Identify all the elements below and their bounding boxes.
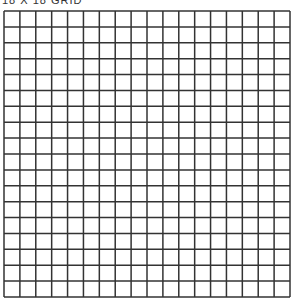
grid-container: [3, 10, 291, 298]
grid-title: 18 X 18 GRID: [2, 0, 82, 6]
grid: [3, 10, 291, 298]
